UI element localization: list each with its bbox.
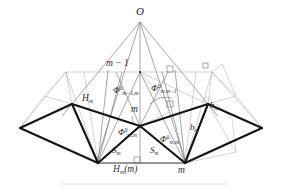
- label-m-minus-1-suffix: − 1: [113, 58, 129, 68]
- right-angle-base: [134, 157, 140, 163]
- label-Hmm-paren: (m): [124, 164, 137, 174]
- bs-sub: s: [195, 127, 197, 133]
- hair-l5: [44, 72, 66, 96]
- phi-ul-sub: m−1,m: [123, 90, 139, 96]
- node-left-upper: [71, 103, 73, 105]
- hair-l6: [44, 96, 72, 104]
- label-H-m-sub: m: [89, 98, 93, 104]
- thick-edge-r-upper: [140, 104, 208, 126]
- phi-lr-base: Φ: [160, 134, 167, 144]
- label-m-minus-1-base: m: [106, 58, 113, 68]
- label-node-m-minus-1: m − 1: [106, 59, 129, 69]
- label-b-m: bm: [210, 101, 219, 111]
- hair-l4: [20, 72, 66, 128]
- hair-l2: [66, 72, 98, 163]
- measure-bs-2: [232, 118, 236, 152]
- node-m-mid: [139, 125, 141, 127]
- fan-ray-1: [62, 22, 140, 116]
- label-phi-upper-left: Φ0m−1,m: [113, 86, 139, 96]
- hair-r2: [185, 72, 212, 163]
- label-H-m: Hm: [82, 94, 93, 105]
- label-node-m-bottom: m: [178, 166, 185, 176]
- node-m-minus-1: [139, 71, 141, 73]
- label-S-m-left: Sm: [112, 146, 121, 156]
- label-Hmm-base: H: [113, 164, 120, 174]
- phi-ll-base: Φ: [118, 127, 125, 137]
- node-right-upper: [207, 103, 209, 105]
- hair-r4: [212, 72, 262, 128]
- construction-hairlines: [20, 64, 262, 163]
- node-bottom-left: [97, 162, 99, 164]
- measure-bs: [185, 152, 236, 163]
- right-angle-upper: [167, 66, 173, 72]
- label-apex-O: O: [136, 6, 144, 17]
- label-H-m-base: H: [82, 93, 89, 103]
- phi-ll-sub: m,m: [128, 132, 137, 138]
- phi-ur-sub: m,m−1: [161, 88, 177, 94]
- label-phi-upper-right: Φ0m,m−1: [151, 84, 177, 94]
- phi-lr-sub: m,m: [170, 139, 179, 145]
- label-phi-lower-right: Φ0m,m: [160, 135, 179, 145]
- phi-ul-base: Φ: [113, 85, 120, 95]
- ray-bl-1: [98, 70, 108, 163]
- label-S-m-right: Sm: [150, 146, 159, 156]
- label-b-s: bs: [190, 123, 197, 133]
- node-bottom-right: [184, 162, 186, 164]
- geometry-figure: O m − 1 m m Hm Hm(m) Φ0m−1,m Φ0m,m−1 Φ0m…: [0, 0, 282, 189]
- label-node-m-mid: m: [131, 105, 138, 115]
- bm-sub: m: [215, 105, 219, 111]
- label-phi-lower-left: Φ0m,m: [118, 128, 137, 138]
- thick-edge-l-top: [20, 104, 72, 128]
- fan-ray-4: [140, 22, 218, 116]
- right-angle-far: [203, 63, 208, 68]
- figure-canvas: [0, 0, 282, 189]
- hair-r9: [212, 64, 222, 72]
- hair-r5: [212, 72, 236, 96]
- thick-edge-l-upper: [72, 104, 140, 126]
- Sm-left-sub: m: [117, 150, 121, 156]
- phi-ur-base: Φ: [151, 83, 158, 93]
- thick-edge-l-bottom: [20, 128, 98, 163]
- Sm-right-sub: m: [155, 150, 159, 156]
- label-H-m-of-m: Hm(m): [113, 165, 137, 176]
- hair-l1: [66, 72, 72, 104]
